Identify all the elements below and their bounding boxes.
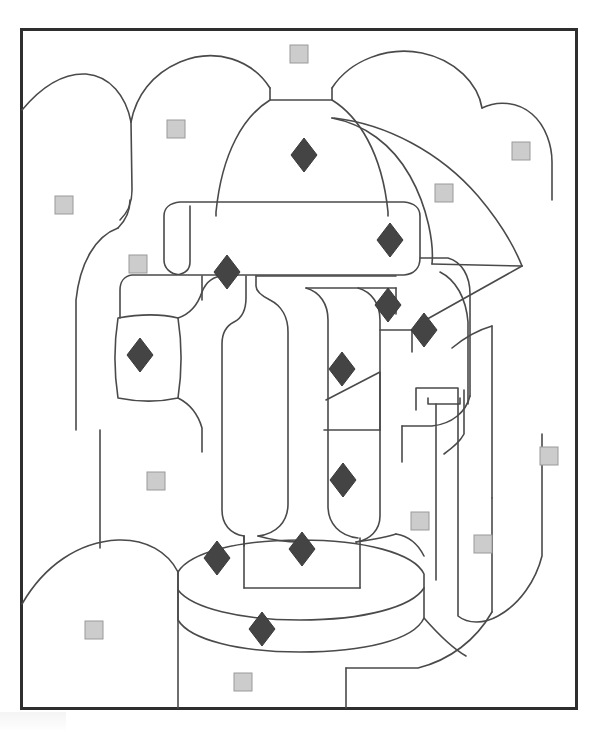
square-marker: [512, 142, 530, 160]
square-marker: [435, 184, 453, 202]
square-marker: [540, 447, 558, 465]
square-marker: [147, 472, 165, 490]
coloring-illustration: [0, 0, 598, 732]
square-marker: [55, 196, 73, 214]
square-marker: [234, 673, 252, 691]
artwork-border: [22, 30, 577, 709]
square-marker: [411, 512, 429, 530]
coloring-page-root: [0, 0, 598, 732]
square-marker: [167, 120, 185, 138]
square-marker: [474, 535, 492, 553]
square-marker: [290, 45, 308, 63]
artwork-canvas: [0, 0, 598, 732]
square-marker: [85, 621, 103, 639]
square-marker: [129, 255, 147, 273]
